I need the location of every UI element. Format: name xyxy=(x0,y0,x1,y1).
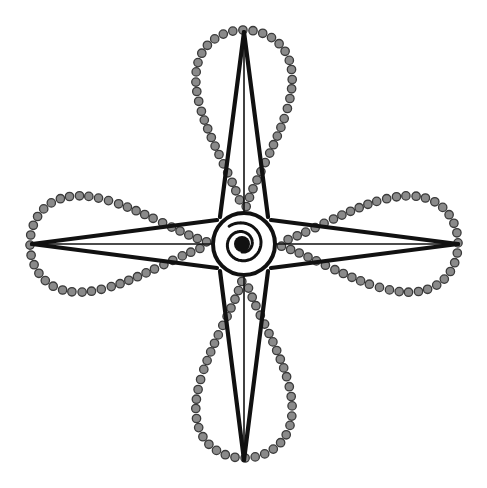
bead xyxy=(261,450,269,458)
bead xyxy=(339,269,347,277)
bead xyxy=(203,356,211,364)
bead xyxy=(385,286,393,294)
bead xyxy=(205,440,213,448)
bead xyxy=(402,192,410,200)
bead xyxy=(195,97,203,105)
bead xyxy=(280,364,288,372)
bead xyxy=(446,267,454,275)
bead xyxy=(142,269,150,277)
bead xyxy=(192,414,200,422)
bead xyxy=(266,149,274,157)
bead xyxy=(58,286,66,294)
bead xyxy=(304,253,312,261)
bead xyxy=(280,114,288,122)
bead xyxy=(404,288,412,296)
bead xyxy=(421,194,429,202)
bead xyxy=(288,412,296,420)
bead xyxy=(192,395,200,403)
bead xyxy=(431,198,439,206)
bead xyxy=(412,192,420,200)
bead xyxy=(192,68,200,76)
bead xyxy=(275,40,283,48)
bead xyxy=(68,288,76,296)
bead xyxy=(196,375,204,383)
bead xyxy=(221,451,229,459)
bead xyxy=(234,286,242,294)
bead xyxy=(87,287,95,295)
bead xyxy=(107,282,115,290)
center-hub xyxy=(213,213,275,275)
bead xyxy=(286,94,294,102)
bead xyxy=(94,194,102,202)
bead xyxy=(65,192,73,200)
bead xyxy=(116,280,124,288)
bead xyxy=(215,150,223,158)
bead xyxy=(229,27,237,35)
bead xyxy=(287,392,295,400)
bead xyxy=(244,284,252,292)
bead xyxy=(207,133,215,141)
bead xyxy=(267,33,275,41)
bead xyxy=(141,210,149,218)
bead xyxy=(249,27,257,35)
bead xyxy=(176,227,184,235)
bead xyxy=(187,248,195,256)
bead xyxy=(283,104,291,112)
bead xyxy=(293,232,301,240)
bead xyxy=(210,339,218,347)
bead xyxy=(231,453,239,461)
bead xyxy=(149,214,157,222)
bead xyxy=(47,199,55,207)
bead xyxy=(199,433,207,441)
bead xyxy=(265,329,273,337)
bead xyxy=(375,283,383,291)
bead xyxy=(285,383,293,391)
arm-east xyxy=(271,220,458,268)
bead xyxy=(214,331,222,339)
bead xyxy=(453,229,461,237)
bead xyxy=(450,219,458,227)
arm-south xyxy=(220,271,268,460)
bead xyxy=(41,276,49,284)
bead xyxy=(219,30,227,38)
bead xyxy=(287,65,295,73)
bead xyxy=(33,212,41,220)
bead xyxy=(27,251,35,259)
bead xyxy=(440,275,448,283)
bead xyxy=(259,29,267,37)
bead xyxy=(276,355,284,363)
bead xyxy=(269,141,277,149)
bead xyxy=(286,421,294,429)
bead xyxy=(453,249,461,257)
bead xyxy=(286,245,294,253)
bead xyxy=(75,192,83,200)
bead xyxy=(445,211,453,219)
bead xyxy=(150,265,158,273)
bead xyxy=(253,176,261,184)
bead xyxy=(338,211,346,219)
bead xyxy=(284,235,292,243)
bead xyxy=(235,196,243,204)
bead xyxy=(194,385,202,393)
bead xyxy=(282,431,290,439)
bead xyxy=(383,195,391,203)
bead xyxy=(197,107,205,115)
bead xyxy=(193,87,201,95)
bead xyxy=(49,282,57,290)
bead xyxy=(355,204,363,212)
bead xyxy=(211,35,219,43)
bead xyxy=(433,281,441,289)
bead xyxy=(212,446,220,454)
bead xyxy=(207,348,215,356)
bead xyxy=(331,266,339,274)
bead xyxy=(56,195,64,203)
bead xyxy=(288,75,296,83)
bead xyxy=(35,269,43,277)
bead xyxy=(392,193,400,201)
bead xyxy=(287,85,295,93)
bead xyxy=(29,221,37,229)
bead xyxy=(232,187,240,195)
bead xyxy=(277,123,285,131)
bead xyxy=(273,132,281,140)
bead xyxy=(125,276,133,284)
